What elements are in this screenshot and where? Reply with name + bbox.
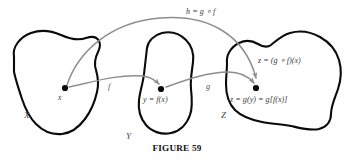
point-dot-x (62, 85, 68, 91)
set-label-x: X (24, 111, 30, 120)
set-blob-y (139, 32, 193, 133)
arrow-label-h: h = g ∘ f (186, 8, 215, 16)
arrow-label-f: f (108, 82, 110, 91)
point-dot-y (158, 86, 164, 92)
set-label-z: Z (221, 111, 226, 120)
point-label-y: y = f(x) (143, 96, 168, 104)
set-blob-z (226, 32, 341, 130)
point-label-z: z = g(y) = g[f(x)] (230, 96, 287, 104)
point-label-x: x (58, 94, 61, 102)
annotation-z-composite: z = (g ∘ f)(x) (258, 57, 301, 65)
diagram-canvas (0, 0, 354, 162)
set-label-y: Y (126, 132, 131, 141)
figure-caption: FIGURE 59 (0, 143, 354, 153)
arrow-label-g: g (206, 82, 210, 91)
point-dot-z (253, 85, 259, 91)
figure-container: h = g ∘ f f g x y = f(x) z = g(y) = g[f(… (0, 0, 354, 162)
